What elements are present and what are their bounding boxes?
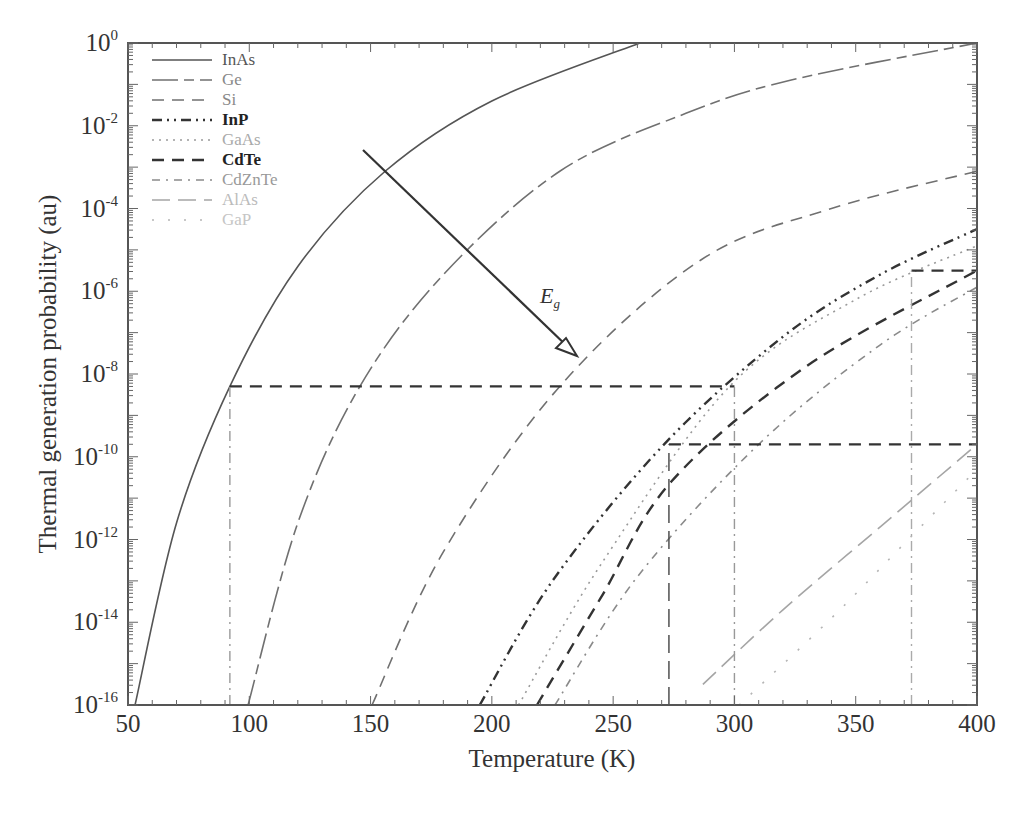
x-tick-label: 300 (716, 710, 754, 738)
legend-item-inp: InP (148, 110, 277, 130)
legend-label: CdZnTe (222, 170, 277, 190)
y-axis-label: Thermal generation probability (au) (34, 195, 62, 554)
legend-item-gaas: GaAs (148, 130, 277, 150)
legend-label: GaP (222, 210, 251, 230)
series-ge-line (248, 43, 977, 705)
legend-label: InP (222, 110, 248, 130)
series-si-line (372, 171, 977, 705)
legend-item-cdte: CdTe (148, 150, 277, 170)
x-tick-label: 200 (473, 710, 511, 738)
y-tick-label: 10-12 (73, 525, 118, 553)
legend-item-alas: AlAs (148, 190, 277, 210)
eg-label: E (540, 283, 553, 308)
legend-label: InAs (222, 50, 255, 70)
legend-item-gap: GaP (148, 210, 277, 230)
series-gap-line (739, 469, 977, 705)
y-tick-label: 10-14 (73, 608, 118, 636)
x-tick-label: 50 (116, 710, 141, 738)
legend-label: CdTe (222, 150, 261, 170)
legend-swatch-icon (148, 155, 216, 165)
series-gaas-line (519, 246, 977, 705)
x-tick-label: 400 (958, 710, 996, 738)
legend: InAsGeSiInPGaAsCdTeCdZnTeAlAsGaP (148, 50, 277, 230)
y-tick-label: 10-2 (81, 112, 119, 140)
x-tick-label: 350 (837, 710, 875, 738)
legend-swatch-icon (148, 215, 216, 225)
legend-item-inas: InAs (148, 50, 277, 70)
y-tick-label: 10-10 (73, 443, 118, 471)
legend-item-cdznte: CdZnTe (148, 170, 277, 190)
legend-swatch-icon (148, 55, 216, 65)
series-cdznte-line (555, 287, 977, 705)
legend-item-ge: Ge (148, 70, 277, 90)
legend-swatch-icon (148, 195, 216, 205)
y-tick-label: 10-16 (73, 691, 118, 719)
legend-swatch-icon (148, 175, 216, 185)
x-tick-label: 250 (594, 710, 632, 738)
eg-annotation: Eg (540, 283, 560, 312)
series-cdte-line (537, 271, 977, 705)
eg-subscript: g (553, 296, 560, 311)
x-axis-label: Temperature (K) (469, 745, 636, 773)
y-tick-label: 10-4 (81, 194, 119, 222)
x-tick-label: 100 (231, 710, 269, 738)
legend-label: Ge (222, 70, 242, 90)
legend-label: Si (222, 90, 236, 110)
legend-swatch-icon (148, 95, 216, 105)
x-tick-label: 150 (352, 710, 390, 738)
y-tick-label: 10-6 (81, 277, 119, 305)
legend-swatch-icon (148, 75, 216, 85)
legend-swatch-icon (148, 135, 216, 145)
legend-label: GaAs (222, 130, 261, 150)
legend-item-si: Si (148, 90, 277, 110)
legend-label: AlAs (222, 190, 258, 210)
y-tick-label: 100 (86, 29, 119, 57)
legend-swatch-icon (148, 115, 216, 125)
y-tick-label: 10-8 (81, 360, 119, 388)
series-alas-line (703, 444, 977, 684)
